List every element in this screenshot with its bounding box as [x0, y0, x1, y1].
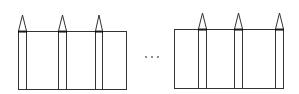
- ellipsis-dot: [157, 56, 159, 58]
- pencil: [234, 13, 243, 89]
- pencil: [95, 15, 103, 90]
- pencil: [198, 13, 207, 89]
- pencil: [58, 15, 67, 90]
- pencil-tip-icon: [19, 15, 27, 31]
- pencil: [275, 13, 284, 89]
- pencil-body: [59, 32, 67, 90]
- pencil-body: [19, 32, 27, 90]
- pencil: [18, 15, 27, 90]
- pencil-tip-icon: [235, 13, 243, 29]
- ellipsis-dot: [151, 56, 153, 58]
- outer-box: [19, 32, 127, 90]
- pencil-tip-icon: [59, 15, 67, 31]
- outer-box: [175, 30, 284, 89]
- ellipsis-dot: [145, 56, 147, 58]
- pencil-body: [276, 30, 284, 89]
- left-group: [18, 15, 127, 90]
- right-group: [175, 13, 285, 89]
- pencil-tip-icon: [96, 15, 103, 31]
- pencil-tip-icon: [199, 13, 207, 29]
- pencil-body: [235, 30, 243, 89]
- diagram-canvas: [0, 0, 299, 94]
- ellipsis: [145, 56, 159, 58]
- pencil-body: [199, 30, 207, 89]
- pencil-body: [96, 32, 103, 90]
- pencil-tip-icon: [276, 13, 284, 29]
